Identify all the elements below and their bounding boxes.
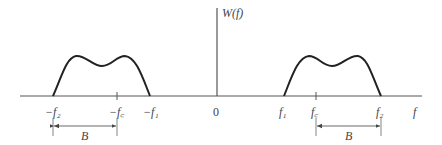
origin-label: 0 [213,105,219,119]
label-neg-f2: −f₂ [45,105,61,119]
right-spectrum-curve [284,56,381,96]
label-pos-fc: f꜀ [311,105,319,119]
right-bandwidth-label: B [345,129,353,143]
left-bandwidth-label: B [81,129,89,143]
spectrum-diagram: W(f) f 0 −f₂ −f꜀ −f₁ f₁ f꜀ f₂ B B [0,0,442,145]
left-bandwidth-indicator: B [53,118,117,143]
x-axis-label: f [413,105,418,119]
y-axis-label: W(f) [222,6,243,20]
label-pos-f2: f₂ [376,105,384,119]
left-spectrum-curve [53,56,150,96]
label-pos-f1: f₁ [279,105,287,119]
label-neg-fc: −f꜀ [109,105,125,119]
label-neg-f1: −f₁ [143,105,159,119]
right-bandwidth-indicator: B [316,118,381,143]
